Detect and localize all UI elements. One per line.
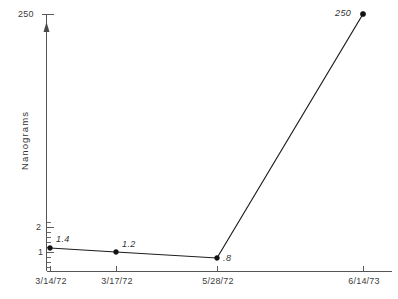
chart-plot-area (0, 0, 398, 299)
data-point-marker[interactable] (215, 256, 220, 261)
chart-container: Nanograms 250 2 1 3/14/72 3/17/72 5/28/7… (0, 0, 398, 299)
x-axis-label-1: 3/14/72 (22, 276, 80, 286)
series-line-nanograms (50, 14, 363, 258)
data-point-marker[interactable] (360, 11, 365, 16)
data-point-marker[interactable] (48, 246, 53, 251)
y-axis-label-2: 2 (36, 222, 41, 232)
x-axis-label-3: 5/28/72 (189, 276, 247, 286)
axis-break-arrow-icon (44, 22, 50, 32)
data-point-label-4: 250 (335, 8, 351, 18)
data-point-label-2: 1.2 (122, 239, 136, 249)
data-point-marker[interactable] (114, 250, 119, 255)
x-axis-label-4: 6/14/73 (335, 276, 393, 286)
data-point-label-3: .8 (223, 253, 231, 263)
y-axis-label-250: 250 (18, 9, 34, 19)
y-axis-label-1: 1 (38, 247, 43, 257)
data-point-label-1: 1.4 (56, 234, 70, 244)
x-axis-label-2: 3/17/72 (88, 276, 146, 286)
y-axis-title: Nanograms (19, 111, 30, 170)
